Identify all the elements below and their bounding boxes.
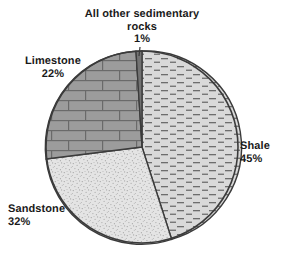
slice-label-shale: Shale 45% xyxy=(240,140,270,165)
slice-label-sandstone-name: Sandstone xyxy=(8,203,65,215)
slice-label-all-other-name-line2: sedimentary rocks xyxy=(127,8,199,33)
slice-label-shale-name: Shale xyxy=(240,140,270,152)
slice-label-shale-percent: 45% xyxy=(240,153,270,166)
slice-label-limestone: Limestone 22% xyxy=(25,55,81,80)
pie-chart-figure: All other sedimentary rocks 1% Limestone… xyxy=(0,0,287,261)
slice-label-sandstone-percent: 32% xyxy=(8,216,65,229)
slice-label-sandstone: Sandstone 32% xyxy=(8,203,65,228)
slice-label-limestone-percent: 22% xyxy=(25,68,81,81)
slice-label-all-other-percent: 1% xyxy=(72,33,212,46)
slice-label-all-other-name-line1: All other xyxy=(85,8,131,20)
slice-label-all-other-sedimentary-rocks: All other sedimentary rocks 1% xyxy=(72,8,212,46)
slice-label-limestone-name: Limestone xyxy=(25,55,81,67)
